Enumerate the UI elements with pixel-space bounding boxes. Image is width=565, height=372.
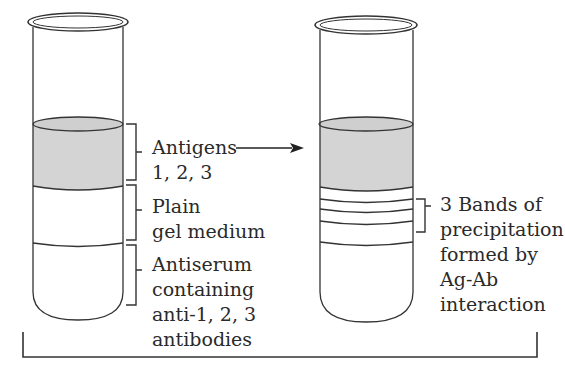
precipitation-band-1	[320, 199, 413, 203]
bracket-antiserum	[126, 245, 142, 305]
label-antigens-1: Antigens	[152, 135, 237, 160]
right-tube	[315, 16, 417, 322]
right-antigen-top	[319, 117, 413, 131]
label-bands-1: 3 Bands of	[440, 192, 542, 217]
arrow-icon	[236, 143, 304, 153]
left-antigen-top	[33, 117, 123, 131]
left-brackets	[126, 124, 142, 305]
bracket-plain-gel	[126, 185, 142, 240]
label-bands-5: interaction	[440, 292, 546, 317]
left-antigen-layer	[33, 124, 123, 190]
label-bands-3: formed by	[440, 242, 538, 267]
left-gel-boundary	[33, 243, 123, 247]
label-antigens-2: 1, 2, 3	[152, 160, 212, 185]
label-plain-2: gel medium	[152, 219, 265, 244]
precipitation-band-2	[320, 209, 413, 213]
label-antiserum-2: containing	[152, 277, 254, 302]
bracket-antigens	[126, 124, 142, 180]
label-antiserum-3: anti-1, 2, 3	[152, 302, 256, 327]
left-tube	[28, 13, 128, 320]
label-antiserum-4: antibodies	[152, 327, 252, 352]
label-bands-2: precipitation	[440, 217, 564, 242]
precipitation-band-3	[320, 221, 413, 225]
right-gel-boundary	[320, 242, 413, 246]
right-antigen-layer	[320, 124, 413, 191]
label-plain-1: Plain	[152, 194, 201, 219]
label-antiserum-1: Antiserum	[152, 252, 252, 277]
bottom-bracket	[23, 332, 537, 357]
label-bands-4: Ag-Ab	[440, 267, 498, 292]
bracket-bands	[416, 199, 431, 232]
